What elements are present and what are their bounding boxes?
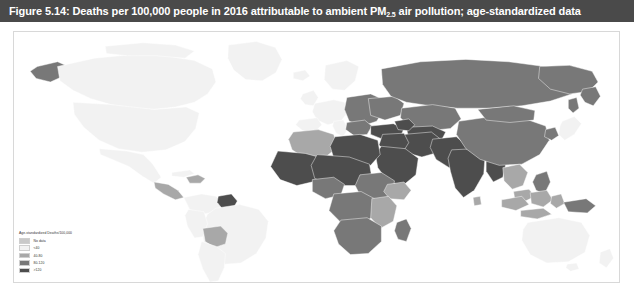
legend-swatch-no-data bbox=[19, 238, 30, 244]
legend-item-over-120[interactable]: >120 bbox=[19, 267, 125, 274]
figure-title: Figure 5.14: Deaths per 100,000 people i… bbox=[0, 5, 581, 17]
figure-title-suffix: air pollution; age-standardized data bbox=[396, 5, 581, 17]
legend-swatch-over-120 bbox=[19, 268, 30, 274]
legend-item-80-120[interactable]: 80-120 bbox=[19, 259, 125, 266]
legend-swatch-40-80 bbox=[19, 253, 30, 259]
figure-title-prefix: Figure 5.14: Deaths per 100,000 people i… bbox=[9, 5, 386, 17]
legend-title: Age-standardized Deaths/100,000 bbox=[19, 231, 125, 235]
legend-item-under-40[interactable]: <40 bbox=[19, 244, 125, 251]
map-panel: Age-standardized Deaths/100,000 No data … bbox=[13, 31, 620, 283]
legend-item-40-80[interactable]: 40-80 bbox=[19, 252, 125, 259]
legend-item-no-data[interactable]: No data bbox=[19, 237, 125, 244]
legend-label-over-120: >120 bbox=[34, 268, 42, 272]
legend-swatch-80-120 bbox=[19, 260, 30, 266]
legend-swatch-under-40 bbox=[19, 245, 30, 251]
legend-label-80-120: 80-120 bbox=[34, 261, 45, 265]
region-sri-lanka bbox=[473, 196, 481, 206]
figure-title-bar: Figure 5.14: Deaths per 100,000 people i… bbox=[0, 0, 634, 22]
figure-title-subscript: 2.5 bbox=[386, 11, 395, 18]
legend-label-40-80: 40-80 bbox=[34, 254, 43, 258]
figure-container: Figure 5.14: Deaths per 100,000 people i… bbox=[0, 0, 634, 296]
map-legend: Age-standardized Deaths/100,000 No data … bbox=[17, 231, 125, 274]
legend-label-under-40: <40 bbox=[34, 246, 40, 250]
legend-label-no-data: No data bbox=[34, 239, 46, 243]
